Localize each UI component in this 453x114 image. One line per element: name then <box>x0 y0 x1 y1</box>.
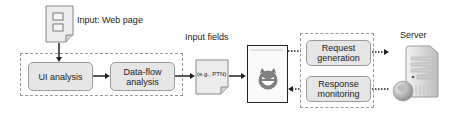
attacker-window <box>247 45 288 103</box>
request-label-line2: generation <box>317 53 360 63</box>
response-label-line2: monitoring <box>317 89 359 99</box>
arrow-dataflow-to-inputfields <box>175 71 197 81</box>
input-fields-example: (e.g., PTN) <box>197 71 226 77</box>
devil-face-icon <box>257 68 279 90</box>
arrow-ui-to-dataflow <box>93 71 111 81</box>
web-page-icon <box>45 5 75 43</box>
ui-analysis-label: UI analysis <box>38 72 82 82</box>
data-flow-label-line1: Data-flow <box>123 67 161 77</box>
input-fields-label: Input fields <box>185 32 229 42</box>
input-web-page-label: Input: Web page <box>77 15 143 25</box>
input-fields-doc: (e.g., PTN) <box>195 59 230 95</box>
dotted-arrow-request-to-server <box>372 48 390 56</box>
server-icon <box>392 45 447 103</box>
response-label-line1: Response <box>318 79 359 89</box>
ui-analysis-box: UI analysis <box>28 62 93 91</box>
data-flow-analysis-box: Data-flow analysis <box>110 62 175 91</box>
response-monitoring-box: Response monitoring <box>306 76 371 102</box>
data-flow-label-line2: analysis <box>126 77 159 87</box>
dotted-link-server-to-response <box>372 85 390 93</box>
request-label-line1: Request <box>322 43 356 53</box>
server-label: Server <box>400 30 427 40</box>
request-generation-box: Request generation <box>306 40 371 66</box>
arrow-inputfields-to-attacker <box>229 71 249 81</box>
